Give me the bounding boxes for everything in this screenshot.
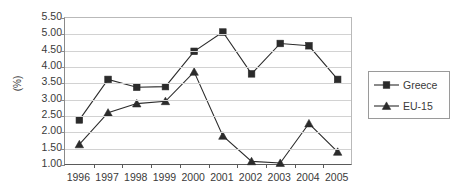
x-axis-tick-labels: 1996199719981999200020012002200320042005 <box>64 171 352 189</box>
x-axis-tick-label: 2005 <box>317 171 357 184</box>
series-lines <box>65 18 352 165</box>
square-marker-icon <box>76 117 83 124</box>
x-axis-tick-mark <box>122 164 123 168</box>
x-axis-tick-mark <box>237 164 238 168</box>
y-axis-tick-label: 1.00 <box>28 158 62 169</box>
legend-label: Greece <box>403 79 437 91</box>
x-axis-tick-mark <box>209 164 210 168</box>
triangle-marker-icon <box>373 99 400 113</box>
y-axis-tick-label: 5.50 <box>28 11 62 22</box>
y-axis-tick-mark <box>61 116 65 117</box>
y-axis-tick-label: 1.50 <box>28 142 62 153</box>
y-axis-tick-label: 3.00 <box>28 93 62 104</box>
line-chart: (%) 5.505.004.504.003.503.002.502.001.50… <box>0 0 459 193</box>
gridline <box>65 116 351 117</box>
square-marker-icon <box>383 82 390 89</box>
legend-swatch <box>373 78 400 92</box>
gridline <box>65 100 351 101</box>
legend-item-greece[interactable]: Greece <box>369 75 449 95</box>
x-axis-tick-mark <box>295 164 296 168</box>
y-axis-tick-mark <box>61 165 65 166</box>
y-axis-tick-mark <box>61 67 65 68</box>
square-marker-icon <box>105 76 112 83</box>
y-axis-tick-mark <box>61 132 65 133</box>
plot-area <box>64 17 352 165</box>
x-axis-tick-mark <box>180 164 181 168</box>
x-axis-tick-mark <box>151 164 152 168</box>
y-axis-tick-mark <box>61 100 65 101</box>
square-marker-icon <box>277 40 284 47</box>
y-axis-tick-label: 4.00 <box>28 60 62 71</box>
square-marker-icon <box>248 71 255 78</box>
gridline <box>65 51 351 52</box>
y-axis-tick-label: 2.00 <box>28 125 62 136</box>
gridline <box>65 34 351 35</box>
y-axis-tick-label: 3.50 <box>28 76 62 87</box>
y-axis-tick-mark <box>61 149 65 150</box>
y-axis-tick-mark <box>61 18 65 19</box>
gridline <box>65 67 351 68</box>
square-marker-icon <box>133 84 140 91</box>
y-axis-tick-label: 4.50 <box>28 44 62 55</box>
square-marker-icon <box>306 42 313 49</box>
x-axis-tick-mark <box>323 164 324 168</box>
legend-swatch <box>373 99 400 113</box>
triangle-marker-icon <box>190 68 198 75</box>
y-axis-tick-mark <box>61 83 65 84</box>
square-marker-icon <box>373 78 400 92</box>
legend: GreeceEU-15 <box>368 71 450 119</box>
legend-label: EU-15 <box>403 100 433 112</box>
y-axis-tick-mark <box>61 34 65 35</box>
triangle-marker-icon <box>305 119 313 126</box>
y-axis-tick-label: 2.50 <box>28 109 62 120</box>
y-axis-tick-mark <box>61 51 65 52</box>
gridline <box>65 149 351 150</box>
series-line <box>79 32 337 120</box>
x-axis-tick-mark <box>94 164 95 168</box>
gridline <box>65 132 351 133</box>
y-axis-tick-labels: 5.505.004.504.003.503.002.502.001.501.00 <box>28 0 62 193</box>
gridline <box>65 83 351 84</box>
legend-item-eu-15[interactable]: EU-15 <box>369 96 449 116</box>
y-axis-tick-label: 5.00 <box>28 27 62 38</box>
square-marker-icon <box>334 76 341 83</box>
y-axis-title: (%) <box>12 54 23 114</box>
series-greece <box>76 29 341 123</box>
x-axis-tick-mark <box>266 164 267 168</box>
